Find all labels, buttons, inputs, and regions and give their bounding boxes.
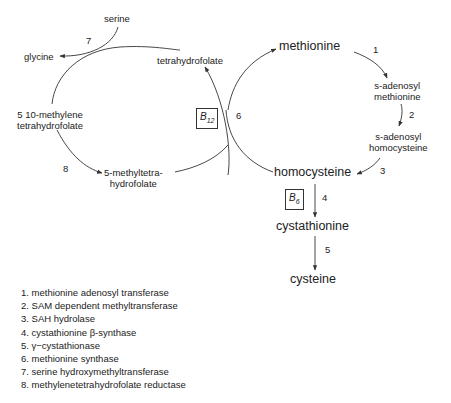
enzyme-legend: 1. methionine adenosyl transferase 2. SA… [21, 286, 186, 392]
metabolite-sam: s-adenosyl methionine [374, 80, 420, 102]
folate-cycle-bottom-arc [175, 145, 228, 172]
arrow-step1 [354, 52, 387, 78]
metabolite-methionine: methionine [279, 41, 340, 52]
step-2: 2 [409, 109, 414, 120]
arrow-step2 [399, 104, 402, 126]
cofactor-b12-box: B12 [196, 108, 218, 129]
legend-item: 7. serine hydroxymethyltransferase [21, 365, 186, 378]
legend-item: 6. methionine synthase [21, 352, 186, 365]
metabolite-serine: serine [104, 13, 130, 24]
metabolite-methylene-thf: 5 10-methylene tetrahydrofolate [17, 109, 83, 131]
step-1: 1 [373, 44, 378, 55]
metabolite-cystathionine: cystathionine [276, 221, 349, 232]
metabolite-methyl-thf: 5-methyltetra- hydrofolate [104, 167, 163, 189]
metabolite-homocysteine: homocysteine [274, 167, 351, 178]
step-8: 8 [63, 163, 68, 174]
step-3: 3 [380, 165, 385, 176]
legend-item: 4. cystathionine β-synthase [21, 326, 186, 339]
homocysteine-arc-left [226, 110, 273, 172]
metabolite-sah: s-adenosyl homocysteine [369, 131, 428, 153]
legend-item: 2. SAM dependent methyltransferase [21, 299, 186, 312]
metabolite-tetrahydrofolate: tetrahydrofolate [157, 55, 223, 66]
step-6: 6 [236, 110, 241, 121]
cofactor-b6-box: B6 [285, 189, 304, 210]
arrow-step3 [357, 158, 380, 174]
legend-item: 8. methylenetetrahydrofolate reductase [21, 378, 186, 391]
step-4: 4 [322, 192, 327, 203]
legend-item: 1. methionine adenosyl transferase [21, 286, 186, 299]
step-5: 5 [325, 244, 330, 255]
step-7: 7 [86, 35, 91, 46]
legend-item: 5. γ−cystathionase [21, 339, 186, 352]
metabolite-glycine: glycine [24, 51, 54, 62]
arrow-to-methionine [228, 49, 276, 110]
metabolite-cysteine: cysteine [290, 274, 336, 285]
legend-item: 3. SAH hydrolase [21, 312, 186, 325]
